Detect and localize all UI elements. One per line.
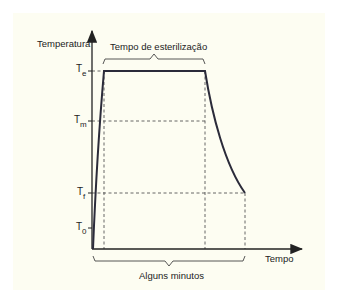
level-t0-label: T 0 — [76, 221, 87, 236]
svg-text:0: 0 — [82, 227, 87, 236]
bottom-brace-label: Alguns minutos — [139, 270, 204, 281]
svg-text:m: m — [80, 120, 87, 129]
level-tf-label: T f — [77, 186, 86, 201]
y-axis-label: Temperatura — [37, 38, 91, 49]
temperature-curve — [93, 71, 245, 249]
bottom-brace — [93, 256, 245, 266]
svg-text:e: e — [82, 69, 87, 78]
level-tm-label: T m — [74, 114, 87, 129]
top-brace-label: Tempo de esterilização — [110, 41, 207, 52]
level-te-label: T e — [76, 63, 87, 78]
top-brace — [103, 54, 205, 64]
x-axis-label: Tempo — [265, 253, 294, 264]
dashed-guides — [92, 71, 245, 249]
svg-text:f: f — [83, 192, 86, 201]
sterilization-diagram: Temperatura Tempo de esterilização Algun… — [0, 0, 337, 306]
